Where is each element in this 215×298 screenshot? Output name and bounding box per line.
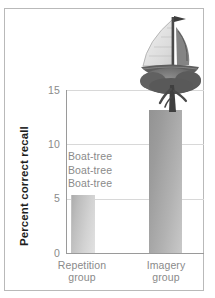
- y-axis-line: [66, 90, 67, 254]
- bar-imagery-group[interactable]: [149, 110, 182, 253]
- x-category-label-repetition: Repetition group: [46, 259, 118, 283]
- y-axis-label: Percent correct recall: [18, 0, 32, 96]
- y-axis-label-text: Percent correct recall: [18, 96, 30, 246]
- x-category-label-imagery-line2: group: [130, 271, 202, 283]
- figure-container: Percent correct recall 15 10 5 0 Boat-tr…: [0, 0, 215, 298]
- annotation-line-2: Boat-tree: [68, 164, 112, 178]
- x-category-label-imagery-line1: Imagery: [130, 259, 202, 271]
- x-axis-line: [66, 253, 204, 254]
- y-tick-label-0: 0: [34, 248, 60, 258]
- x-category-label-repetition-line2: group: [46, 271, 118, 283]
- bar-repetition-group[interactable]: [71, 195, 95, 253]
- annotation-boat-tree: Boat-tree Boat-tree Boat-tree: [68, 150, 112, 191]
- x-category-label-imagery: Imagery group: [130, 259, 202, 283]
- gridline-15: [66, 90, 204, 91]
- annotation-line-1: Boat-tree: [68, 150, 112, 164]
- gridline-10: [66, 144, 204, 145]
- y-tick-label-5: 5: [34, 193, 60, 203]
- y-tick-label-10: 10: [34, 139, 60, 149]
- x-category-label-repetition-line1: Repetition: [46, 259, 118, 271]
- annotation-line-3: Boat-tree: [68, 177, 112, 191]
- y-tick-label-15: 15: [34, 85, 60, 95]
